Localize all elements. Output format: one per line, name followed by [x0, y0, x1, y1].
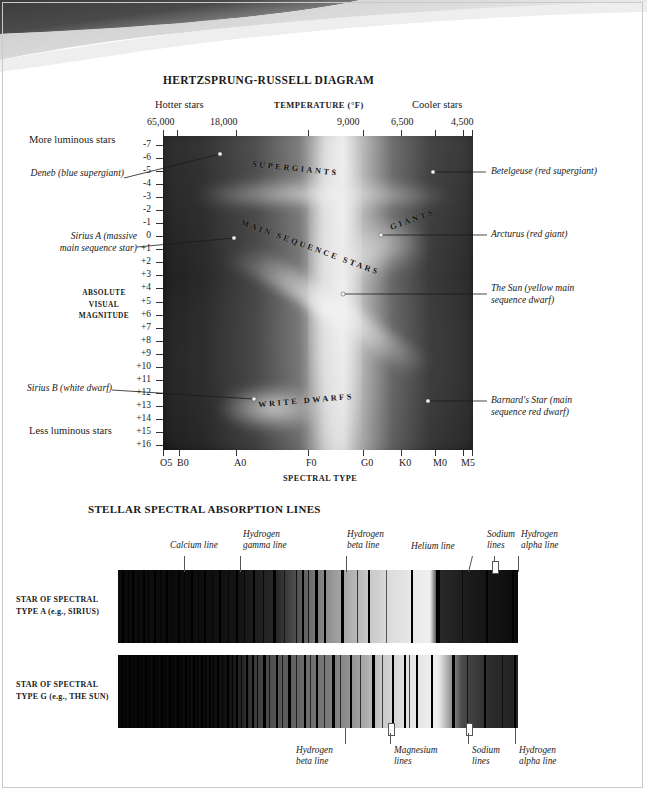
absorption-line: [360, 655, 361, 728]
magnitude-tick: [156, 445, 163, 446]
callout-the-sun: The Sun (yellow main sequence dwarf): [491, 282, 574, 305]
magnitude-ticklabel: +11: [136, 375, 151, 384]
temperature-ticklabel: 4,500: [451, 116, 474, 127]
absorption-line: [219, 570, 221, 643]
annotation-line-sodium-top: [494, 556, 495, 562]
magnitude-tick: [156, 288, 163, 289]
magnitude-tick: [156, 171, 163, 172]
absorption-line: [148, 570, 149, 643]
annotation-magnesium-lines-text-2: lines: [394, 756, 412, 766]
absorption-line: [189, 655, 190, 728]
absorption-line: [173, 655, 174, 728]
magnitude-tick: [156, 158, 163, 159]
spectral-ticklabel: O5: [160, 457, 172, 468]
absorption-line: [133, 655, 134, 728]
absorption-line: [137, 655, 139, 728]
absorption-line: [132, 570, 134, 643]
absorption-line: [169, 655, 171, 728]
absorption-line: [276, 655, 278, 728]
magnitude-axis-title-line: VISUAL: [72, 299, 136, 311]
absorption-line: [436, 570, 440, 643]
absorption-line: [149, 655, 150, 728]
absorption-line: [341, 570, 344, 643]
annotation-hydrogen-beta-line-bottom: Hydrogen beta line: [296, 745, 333, 767]
annotation-hydrogen-alpha-line-top-text-1: Hydrogen: [521, 529, 558, 539]
magnitude-ticklabel: -7: [143, 140, 151, 149]
absorption-line: [125, 655, 126, 728]
callout-sirius-a-label-2: main sequence star): [60, 242, 137, 253]
magnitude-tick: [156, 236, 163, 237]
absorption-line: [368, 570, 370, 643]
more-luminous-label: More luminous stars: [29, 134, 115, 145]
annotation-hydrogen-alpha-line-top-text-2: alpha line: [521, 540, 558, 550]
absorption-line: [160, 570, 161, 643]
callout-deneb: Deneb (blue supergiant): [0, 167, 124, 179]
magnitude-tick: [156, 184, 163, 185]
absorption-line: [153, 655, 155, 728]
annotation-calcium-line: Calcium line: [170, 540, 218, 551]
absorption-line: [324, 655, 325, 728]
magnitude-tick: [156, 302, 163, 303]
temperature-ticklabel: 9,000: [337, 116, 360, 127]
absorption-line: [382, 655, 383, 728]
absorption-line: [154, 570, 156, 643]
temperature-ticklabel: 6,500: [391, 116, 414, 127]
annotation-hydrogen-alpha-line-bottom-text-1: Hydrogen: [519, 745, 556, 755]
magnitude-ticklabel: +1: [141, 244, 151, 253]
spectrum-band-type-g: [118, 655, 518, 728]
magnitude-tick: [156, 406, 163, 407]
absorption-line: [128, 570, 129, 643]
magnitude-tick: [156, 223, 163, 224]
annotation-line-sodium-bottom: [468, 733, 469, 744]
callout-the-sun-label-1: The Sun (yellow main: [491, 282, 574, 293]
magnitude-tick: [156, 432, 163, 433]
absorption-line: [222, 655, 223, 728]
absorption-line: [161, 655, 163, 728]
annotation-box-sodium-top: [492, 561, 499, 574]
temperature-axis-title: TEMPERATURE (°F): [274, 100, 364, 110]
absorption-line: [467, 655, 468, 728]
annotation-line-hydrogen-gamma: [240, 556, 241, 572]
spectrum-g-row-label: STAR OF SPECTRAL TYPE G (e.g., THE SUN): [16, 679, 112, 703]
spectral-ticklabels: O5B0A0F0G0K0M0M5: [150, 457, 495, 471]
callout-sirius-a: Sirius A (massive main sequence star): [0, 230, 137, 253]
absorption-line: [236, 570, 238, 643]
hr-diagram-title: HERTZSPRUNG-RUSSELL DIAGRAM: [163, 74, 374, 86]
absorption-line: [129, 655, 131, 728]
absorption-line: [315, 570, 318, 643]
absorption-line: [502, 655, 503, 728]
magnitude-ticklabel: -5: [143, 166, 151, 175]
magnitude-tick: [156, 197, 163, 198]
annotation-helium-line-text: Helium line: [411, 541, 455, 551]
annotation-line-magnesium: [390, 733, 391, 744]
absorption-line: [201, 655, 203, 728]
absorption-line: [253, 570, 255, 643]
absorption-line: [244, 570, 245, 643]
absorption-line: [184, 570, 185, 643]
spectral-axis-title: SPECTRAL TYPE: [283, 474, 357, 483]
absorption-line: [310, 655, 311, 728]
spectral-tick: [363, 450, 364, 456]
magnitude-ticklabel: +5: [141, 297, 151, 306]
magnitude-axis-title-line: ABSOLUTE: [72, 287, 136, 299]
absorption-line: [165, 655, 166, 728]
magnitude-tick: [156, 210, 163, 211]
absorption-line: [191, 570, 193, 643]
annotation-magnesium-lines-text-1: Magnesium: [394, 745, 437, 755]
absorption-line: [332, 655, 335, 728]
callout-sirius-b: Sirius B (white dwarf): [0, 382, 112, 394]
magnitude-tick: [156, 419, 163, 420]
annotation-hydrogen-gamma-line: Hydrogen gamma line: [243, 529, 287, 551]
magnitude-ticklabel: +4: [141, 283, 151, 292]
annotation-line-hydrogen-beta-bottom: [345, 728, 346, 744]
annotation-hydrogen-beta-line-top-text-1: Hydrogen: [347, 529, 384, 539]
magnitude-ticklabel: +6: [141, 310, 151, 319]
absorption-line: [431, 655, 433, 728]
absorption-line: [213, 655, 214, 728]
absorption-line: [145, 655, 147, 728]
absorption-line: [232, 655, 233, 728]
spectral-ticklabel: A0: [234, 457, 246, 468]
callout-arcturus-label: Arcturus (red giant): [491, 228, 568, 239]
temperature-ticklabel: 18,000: [210, 116, 238, 127]
spectral-ticklabel: B0: [177, 457, 189, 468]
